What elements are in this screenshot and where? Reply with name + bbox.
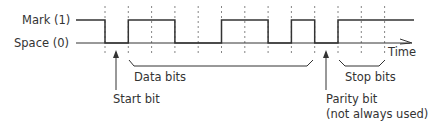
start-bit-label: Start bit — [113, 92, 160, 106]
space-label: Space (0) — [14, 36, 69, 50]
parity-bit-arrowhead-icon — [323, 50, 329, 58]
start-bit-arrowhead-icon — [113, 50, 119, 58]
parity-bit-label: Parity bit — [326, 92, 378, 106]
time-label: Time — [387, 45, 416, 59]
stop-bits-bracket — [339, 60, 385, 66]
mark-label: Mark (1) — [22, 13, 70, 27]
parity-note-label: (not always used) — [326, 107, 428, 121]
bit-boundary-gridlines — [105, 6, 385, 56]
uart-timing-diagram: Mark (1) Space (0) Time Data bits Stop b… — [0, 0, 432, 126]
data-bits-label: Data bits — [134, 70, 186, 84]
data-bits-bracket — [129, 60, 313, 66]
stop-bits-label: Stop bits — [345, 70, 396, 84]
